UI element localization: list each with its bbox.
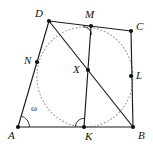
point-label-A: A	[8, 130, 15, 141]
geometry-canvas	[0, 0, 153, 151]
point-label-N: N	[24, 55, 31, 66]
point-label-D: D	[35, 8, 43, 19]
point-dot-X	[86, 68, 90, 72]
point-label-B: B	[138, 130, 145, 141]
angle-arc-at-A	[21, 116, 29, 127]
point-label-X: X	[73, 64, 80, 75]
circle-label-omega: ω	[31, 104, 37, 113]
point-dot-D	[47, 19, 51, 23]
geometry-figure: A B C D M N K L X ω	[0, 0, 153, 151]
point-dot-L	[129, 74, 133, 78]
point-label-C: C	[136, 21, 143, 32]
point-dot-A	[16, 125, 20, 129]
point-label-K: K	[85, 131, 92, 142]
segment-DB	[49, 21, 133, 127]
segment-MK	[84, 26, 91, 127]
point-dot-B	[131, 125, 135, 129]
point-label-M: M	[85, 9, 94, 20]
point-dot-M	[89, 24, 93, 28]
point-dot-C	[129, 29, 133, 33]
point-label-L: L	[136, 70, 142, 81]
internal-segments	[49, 21, 133, 127]
point-dot-N	[35, 60, 39, 64]
point-dot-K	[82, 125, 86, 129]
